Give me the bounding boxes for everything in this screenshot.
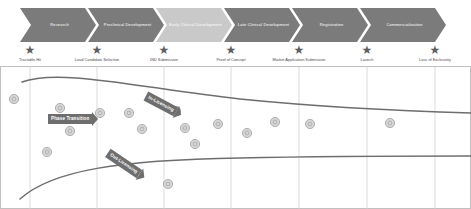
- phase-arrow-label: Preclinical Development: [104, 23, 151, 27]
- upper-boundary-curve: [22, 77, 471, 113]
- data-point-9[interactable]: [213, 119, 222, 128]
- star-icon: ★: [361, 44, 373, 56]
- phase-arrow-4[interactable]: Late Clinical Development: [224, 8, 300, 42]
- data-point-outer: [242, 128, 251, 137]
- callout-2[interactable]: Phase Transition: [48, 114, 92, 124]
- data-point-11[interactable]: [270, 117, 279, 126]
- data-point-16[interactable]: [163, 179, 172, 188]
- data-point-4[interactable]: [65, 126, 74, 135]
- data-point-outer: [190, 139, 199, 148]
- plot-canvas: [0, 66, 471, 209]
- star-icon: ★: [24, 44, 36, 56]
- data-point-12[interactable]: [305, 119, 314, 128]
- data-point-6[interactable]: [137, 124, 146, 133]
- data-point-outer: [42, 147, 51, 156]
- phase-arrow-2[interactable]: Preclinical Development: [88, 8, 164, 42]
- phase-arrow-5[interactable]: Registration: [292, 8, 368, 42]
- phase-arrow-3[interactable]: Early Clinical Development: [156, 8, 232, 42]
- data-point-1[interactable]: [9, 94, 18, 103]
- data-point-outer: [65, 126, 74, 135]
- data-point-2[interactable]: [55, 103, 64, 112]
- phase-arrow-label: Late Clinical Development: [238, 23, 289, 27]
- pharma-pipeline-diagram: ResearchPreclinical DevelopmentEarly Cli…: [0, 0, 471, 209]
- licensing-scatter-plot: [0, 66, 471, 209]
- data-point-13[interactable]: [385, 118, 394, 127]
- data-point-outer: [9, 94, 18, 103]
- data-point-outer: [305, 119, 314, 128]
- data-point-10[interactable]: [242, 128, 251, 137]
- star-icon: ★: [91, 44, 103, 56]
- data-point-outer: [137, 124, 146, 133]
- data-point-outer: [124, 108, 133, 117]
- data-point-outer: [55, 103, 64, 112]
- data-point-outer: [163, 179, 172, 188]
- star-icon: ★: [225, 44, 237, 56]
- phase-arrow-label: Registration: [320, 23, 344, 27]
- milestone-label: Loss of Exclusivity: [389, 57, 471, 62]
- phase-arrow-band: ResearchPreclinical DevelopmentEarly Cli…: [0, 0, 471, 42]
- data-point-outer: [385, 118, 394, 127]
- data-point-8[interactable]: [180, 123, 189, 132]
- star-icon: ★: [429, 44, 441, 56]
- data-point-outer: [213, 119, 222, 128]
- phase-arrow-label: Research: [50, 23, 69, 27]
- data-point-14[interactable]: [42, 147, 51, 156]
- star-icon: ★: [293, 44, 305, 56]
- lower-boundary-curve: [20, 156, 471, 199]
- data-point-5[interactable]: [124, 108, 133, 117]
- phase-arrow-1[interactable]: Research: [20, 8, 96, 42]
- data-point-outer: [180, 123, 189, 132]
- data-point-outer: [270, 117, 279, 126]
- star-icon: ★: [158, 44, 170, 56]
- plot-border: [1, 67, 471, 209]
- phase-arrow-label: Commercialization: [386, 23, 422, 27]
- phase-arrow-label: Early Clinical Development: [169, 23, 222, 27]
- data-point-15[interactable]: [190, 139, 199, 148]
- phase-arrow-6[interactable]: Commercialization: [360, 8, 446, 42]
- callout-label: Phase Transition: [51, 116, 89, 121]
- callout-arrow-banner: Phase Transition: [48, 114, 92, 124]
